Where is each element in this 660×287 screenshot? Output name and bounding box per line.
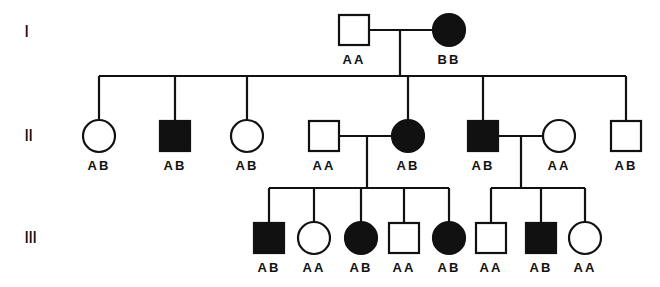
genotype-label: AB xyxy=(88,158,111,173)
genotype-label: AB xyxy=(236,158,259,173)
female-unaffected-symbol xyxy=(569,222,601,254)
male-unaffected-symbol xyxy=(476,223,506,253)
male-affected-symbol xyxy=(468,121,498,151)
male-affected-symbol xyxy=(254,223,284,253)
female-affected-symbol xyxy=(433,222,465,254)
generation-label: II xyxy=(25,126,33,146)
female-unaffected-symbol xyxy=(83,120,115,152)
female-affected-symbol xyxy=(433,14,465,46)
male-unaffected-symbol xyxy=(309,121,339,151)
generation-label: III xyxy=(25,228,37,248)
genotype-label: AB xyxy=(350,260,373,275)
female-unaffected-symbol xyxy=(543,120,575,152)
female-affected-symbol xyxy=(345,222,377,254)
genotype-label: BB xyxy=(438,52,461,67)
female-affected-symbol xyxy=(392,120,424,152)
female-unaffected-symbol xyxy=(231,120,263,152)
male-affected-symbol xyxy=(160,121,190,151)
genotype-label: AB xyxy=(397,158,420,173)
genotype-label: AA xyxy=(480,260,503,275)
genotype-label: AB xyxy=(164,158,187,173)
male-unaffected-symbol xyxy=(389,223,419,253)
genotype-label: AA xyxy=(343,52,366,67)
genotype-label: AA xyxy=(303,260,326,275)
genotype-label: AA xyxy=(548,158,571,173)
genotype-label: AA xyxy=(393,260,416,275)
female-unaffected-symbol xyxy=(298,222,330,254)
genotype-label: AB xyxy=(258,260,281,275)
pedigree-diagram xyxy=(0,0,660,287)
genotype-label: AB xyxy=(438,260,461,275)
male-affected-symbol xyxy=(526,223,556,253)
genotype-label: AA xyxy=(574,260,597,275)
pedigree-chart: IIIIII AABBABABABAAABABAAABABAAABAAABAAA… xyxy=(0,0,660,287)
genotype-label: AA xyxy=(313,158,336,173)
male-unaffected-symbol xyxy=(339,15,369,45)
generation-label: I xyxy=(25,22,29,42)
genotype-label: AB xyxy=(472,158,495,173)
genotype-label: AB xyxy=(530,260,553,275)
genotype-label: AB xyxy=(615,158,638,173)
male-unaffected-symbol xyxy=(611,121,641,151)
